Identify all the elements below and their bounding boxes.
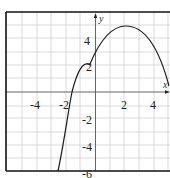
y-tick-label: -2 [82, 113, 92, 127]
y-axis-label: y [98, 13, 104, 24]
y-tick-label: 4 [84, 34, 90, 48]
x-tick-label: -2 [59, 98, 69, 112]
y-tick-label: -4 [82, 140, 92, 154]
x-tick-labels: -4 -2 2 4 [30, 98, 156, 112]
x-tick-label: -4 [30, 98, 40, 112]
x-tick-label: 2 [121, 98, 127, 112]
function-graph: y x -4 -2 2 4 4 2 -2 -4 -6 [0, 0, 170, 178]
x-tick-label: 4 [150, 98, 156, 112]
y-axis-arrow-icon [94, 13, 97, 18]
x-axis-arrow-icon [165, 90, 170, 93]
y-tick-label: -6 [82, 167, 92, 178]
